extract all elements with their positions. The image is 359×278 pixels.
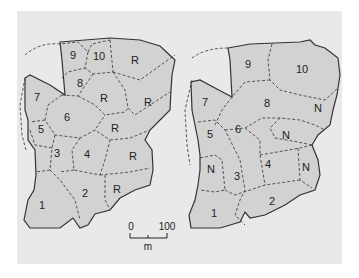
- right-label-n3: N: [207, 163, 215, 175]
- left-label-r3: R: [144, 96, 152, 108]
- left-label-r2: R: [100, 92, 108, 104]
- right-label-n1: N: [314, 102, 322, 114]
- left-label-r1: R: [131, 54, 139, 66]
- right-label-n4: N: [302, 161, 310, 173]
- scale-label-end: 100: [159, 221, 176, 232]
- right-label-8: 8: [264, 97, 270, 109]
- scale-label-start: 0: [128, 221, 134, 232]
- scale-bar: 0 100 m: [128, 221, 176, 252]
- right-label-1: 1: [211, 207, 217, 219]
- right-label-5: 5: [207, 128, 213, 140]
- left-label-4: 4: [84, 148, 90, 160]
- left-label-1: 1: [39, 199, 45, 211]
- right-label-10: 10: [296, 63, 308, 75]
- maps-svg: 9 10 R 8 7 R R 6 5 R 3 4 R R 2 1: [0, 0, 359, 278]
- scale-bar-line: [130, 233, 167, 238]
- left-label-3: 3: [54, 147, 60, 159]
- diagram-stage: 9 10 R 8 7 R R 6 5 R 3 4 R R 2 1: [0, 0, 359, 278]
- right-label-3: 3: [234, 170, 240, 182]
- right-label-6: 6: [235, 123, 241, 135]
- left-label-9: 9: [70, 49, 76, 61]
- right-label-4: 4: [265, 158, 271, 170]
- right-label-9: 9: [245, 58, 251, 70]
- right-map: 9 10 8 7 N 6 5 N N 3 4 N 2 1: [185, 40, 340, 228]
- left-label-6: 6: [64, 111, 70, 123]
- left-map: 9 10 R 8 7 R R 6 5 R 3 4 R R 2 1: [20, 38, 175, 228]
- scale-unit-label: m: [144, 241, 152, 252]
- right-label-n2: N: [282, 129, 290, 141]
- left-label-10: 10: [93, 50, 105, 62]
- left-label-8: 8: [77, 77, 83, 89]
- left-label-r6: R: [113, 183, 121, 195]
- right-label-7: 7: [202, 96, 208, 108]
- right-label-2: 2: [269, 195, 275, 207]
- left-label-r5: R: [129, 150, 137, 162]
- left-label-5: 5: [38, 123, 44, 135]
- left-label-r4: R: [111, 122, 119, 134]
- left-label-7: 7: [34, 91, 40, 103]
- left-label-2: 2: [82, 187, 88, 199]
